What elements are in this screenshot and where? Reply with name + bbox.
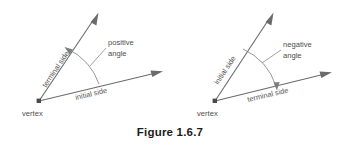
vertex-dot-left (37, 99, 41, 103)
positive-angle-leader-line (90, 48, 106, 66)
negative-angle-label-line1: negative (283, 40, 312, 49)
negative-angle-leader-line (262, 50, 281, 63)
initial-side-arrowhead-right (266, 13, 274, 26)
negative-angle-diagram: vertex terminal side initial side negati… (197, 13, 332, 119)
terminal-side-arrowhead-right (320, 72, 333, 78)
positive-angle-label-line1: positive (108, 38, 134, 47)
vertex-dot-right (213, 99, 217, 103)
positive-angle-arc (68, 49, 99, 84)
figure-container: vertex initial side terminal side positi… (0, 0, 340, 152)
vertex-label-left: vertex (22, 109, 43, 118)
vertex-label-right: vertex (197, 109, 218, 118)
initial-side-label-right: initial side (212, 54, 238, 86)
figure-caption: Figure 1.6.7 (0, 126, 340, 138)
negative-angle-arc (243, 49, 276, 86)
angle-diagrams-svg: vertex initial side terminal side positi… (0, 0, 340, 122)
positive-angle-label-line2: angle (108, 49, 127, 58)
negative-angle-label-line2: angle (283, 51, 302, 60)
terminal-side-label-left: terminal side (40, 49, 71, 89)
terminal-side-arrowhead-left (91, 13, 99, 26)
positive-angle-diagram: vertex initial side terminal side positi… (22, 13, 163, 119)
initial-side-arrowhead-left (151, 71, 164, 77)
initial-side-ray-right (215, 19, 269, 101)
